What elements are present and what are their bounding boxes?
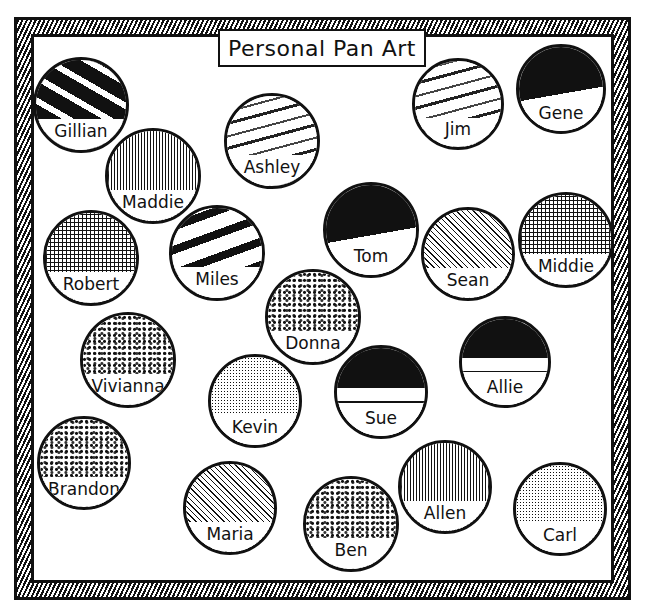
pan-name-label: Middie [521, 258, 611, 275]
pan-name-label: Brandon [40, 481, 128, 498]
pan-name-label: Kevin [211, 419, 299, 436]
pan-art-circle: Brandon [37, 416, 131, 510]
pan-art-circle: Maria [183, 461, 277, 555]
pan-name-label: Carl [516, 527, 604, 544]
pan-name-label: Ashley [227, 159, 317, 176]
pan-art-circle: Jim [412, 58, 504, 150]
pan-name-label: Ben [306, 542, 396, 559]
page-title: Personal Pan Art [228, 36, 416, 61]
pan-art-circle: Ben [303, 476, 399, 572]
pan-art-circle: Miles [169, 205, 265, 301]
pan-art-circle: Middie [518, 192, 614, 288]
pan-art-circle: Sue [334, 345, 428, 439]
pan-art-circle: Ashley [224, 93, 320, 189]
pan-art-circle: Kevin [208, 354, 302, 448]
pan-art-circle: Tom [323, 182, 419, 278]
pan-name-label: Tom [326, 248, 416, 265]
pan-name-label: Sean [424, 272, 512, 289]
pan-art-circle: Gene [516, 44, 606, 134]
pan-name-label: Allie [462, 379, 548, 396]
pan-name-label: Maria [186, 526, 274, 543]
pan-name-label: Allen [401, 505, 489, 522]
pan-art-circle: Sean [421, 207, 515, 301]
pan-art-circle: Robert [43, 210, 139, 306]
pan-art-circle: Allie [459, 316, 551, 408]
pan-name-label: Gene [519, 105, 603, 122]
pan-art-circle: Vivianna [80, 312, 176, 408]
pan-name-label: Miles [172, 271, 262, 288]
pan-name-label: Sue [337, 410, 425, 427]
pan-name-label: Jim [415, 121, 501, 138]
pan-art-circle: Carl [513, 462, 607, 556]
pan-name-label: Vivianna [83, 378, 173, 395]
title-box: Personal Pan Art [218, 29, 426, 67]
pan-name-label: Robert [46, 276, 136, 293]
pan-art-circle: Allen [398, 440, 492, 534]
